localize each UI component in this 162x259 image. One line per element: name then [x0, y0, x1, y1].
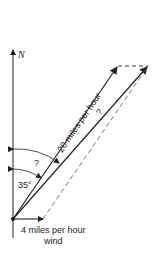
unknown-angle-label: ?: [34, 158, 39, 168]
wind-speed-label: 4 miles per hour: [21, 225, 86, 235]
wind-label: wind: [43, 236, 63, 246]
known-angle-arc: [13, 169, 41, 178]
resultant-vector: [13, 67, 147, 219]
known-angle-label: 35°: [18, 180, 32, 190]
vector-diagram: N 20 miles per hour ? ? 35° 4 miles per …: [0, 0, 162, 259]
origin-point: [11, 217, 15, 221]
north-label: N: [17, 49, 26, 60]
